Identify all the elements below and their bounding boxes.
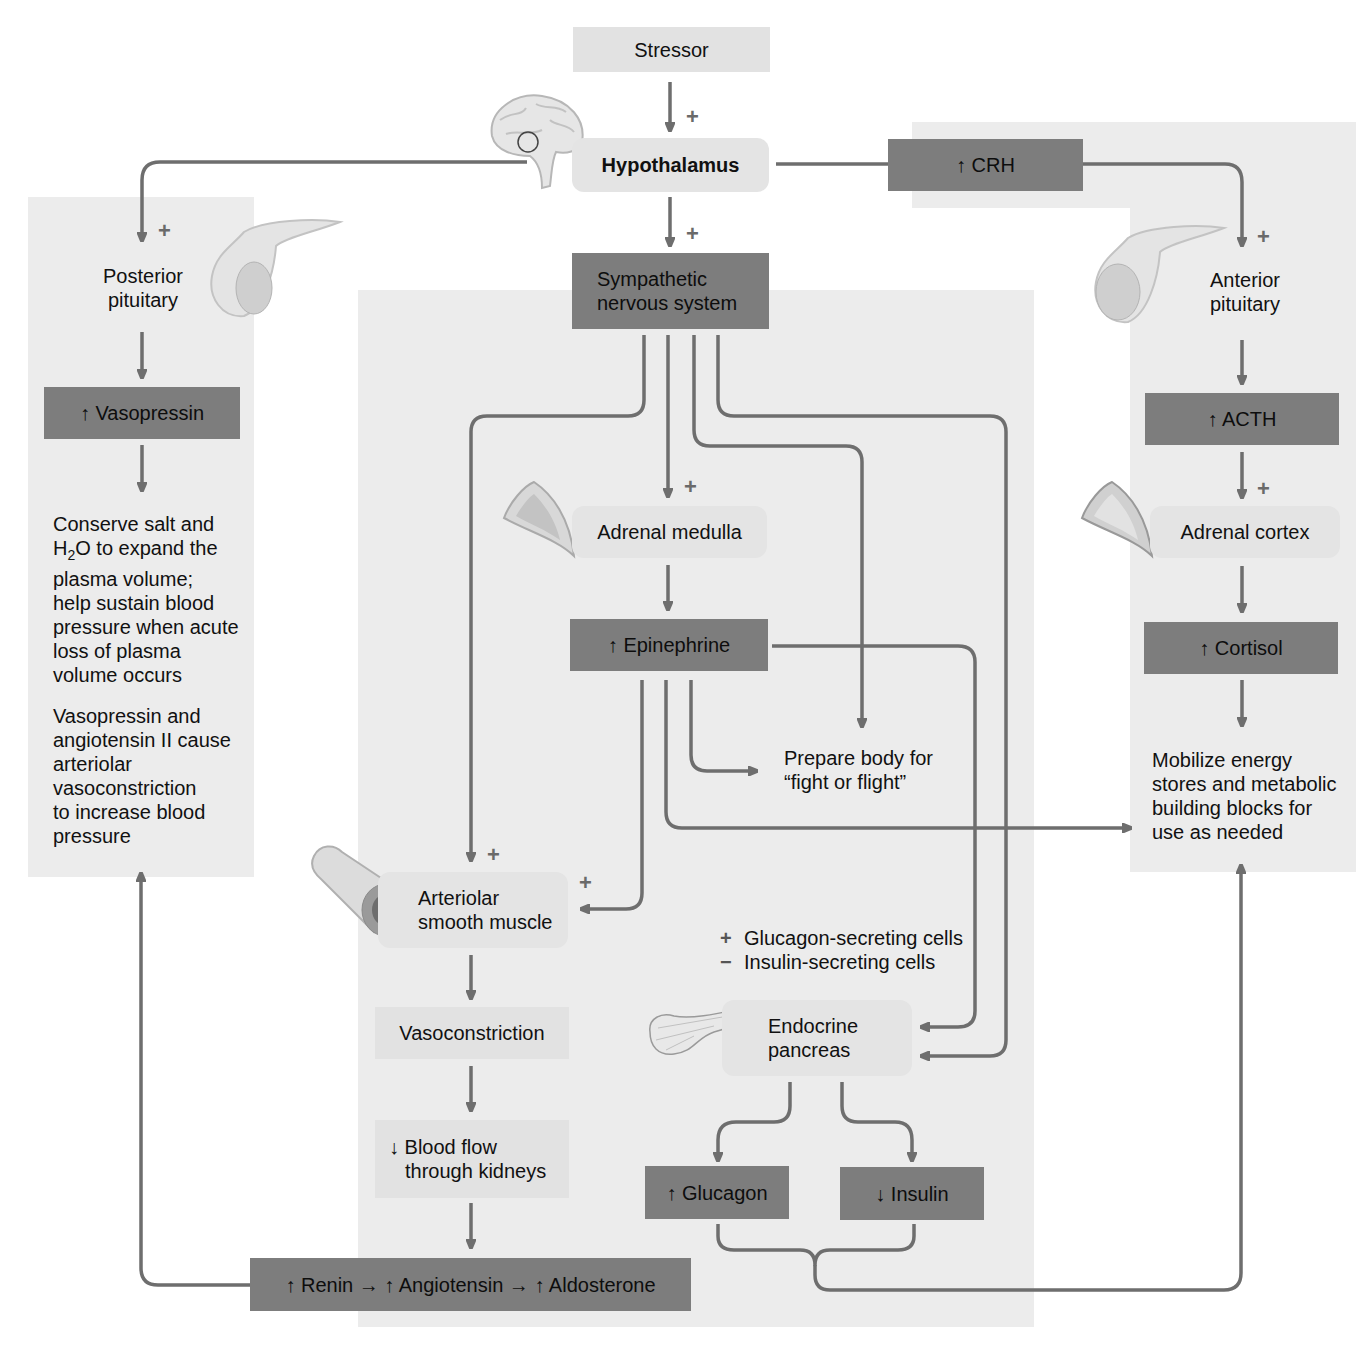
sns-line2: nervous system <box>597 291 737 315</box>
crh-box: ↑ CRH <box>888 139 1083 191</box>
insulin-box: ↓ Insulin <box>840 1167 984 1220</box>
adrenal-medulla-icon <box>500 478 580 563</box>
adrenal-cortex-label: Adrenal cortex <box>1181 520 1310 544</box>
acth-box: ↑ ACTH <box>1145 393 1339 445</box>
sns-line1: Sympathetic <box>597 267 707 291</box>
vasoconstriction-effect-text: Vasopressin and angiotensin II cause art… <box>53 704 248 848</box>
stressor-box: Stressor <box>573 27 770 72</box>
plus-sign: + <box>684 476 697 498</box>
crh-label: ↑ CRH <box>956 153 1015 177</box>
plus-sign: + <box>686 106 699 128</box>
cortisol-box: ↑ Cortisol <box>1144 622 1338 674</box>
plus-sign: + <box>1257 226 1270 248</box>
raa-label: ↑ Renin → ↑ Angiotensin → ↑ Aldosterone <box>285 1273 655 1297</box>
mobilize-energy-text: Mobilize energy stores and metabolic bui… <box>1152 748 1352 844</box>
epinephrine-box: ↑ Epinephrine <box>570 619 768 671</box>
adrenal-cortex-icon <box>1078 478 1158 563</box>
plus-sign: + <box>1257 478 1270 500</box>
fight-or-flight-text: Prepare body for “fight or flight” <box>784 746 933 794</box>
acth-label: ↑ ACTH <box>1208 407 1277 431</box>
vasoconstriction-label: Vasoconstriction <box>399 1021 544 1045</box>
plus-sign: + <box>158 220 171 242</box>
vasopressin-box: ↑ Vasopressin <box>44 387 240 439</box>
stressor-label: Stressor <box>634 38 708 62</box>
plus-sign: + <box>579 872 592 894</box>
vasopressin-effect-text: Conserve salt and H2O to expand the plas… <box>53 512 248 687</box>
adrenal-medulla-label: Adrenal medulla <box>597 520 742 544</box>
adrenal-medulla-box: Adrenal medulla <box>572 506 767 558</box>
renin-angiotensin-aldosterone-box: ↑ Renin → ↑ Angiotensin → ↑ Aldosterone <box>250 1258 691 1311</box>
vasoconstriction-box: Vasoconstriction <box>375 1007 569 1059</box>
sympathetic-nervous-system-box: Sympathetic nervous system <box>572 253 769 329</box>
glucagon-box: ↑ Glucagon <box>645 1166 789 1219</box>
arteriolar-smooth-muscle-box: Arteriolar smooth muscle <box>378 872 568 948</box>
blood-flow-kidneys-box: ↓ Blood flow through kidneys <box>375 1120 569 1198</box>
posterior-pituitary-label: Posterior pituitary <box>48 258 238 318</box>
plus-sign: + <box>487 844 500 866</box>
adrenal-cortex-box: Adrenal cortex <box>1150 506 1340 558</box>
cortisol-label: ↑ Cortisol <box>1199 636 1282 660</box>
insulin-label: ↓ Insulin <box>875 1182 948 1206</box>
endocrine-pancreas-box: Endocrine pancreas <box>722 1000 912 1076</box>
vasopressin-label: ↑ Vasopressin <box>80 401 204 425</box>
hypothalamus-label: Hypothalamus <box>602 153 740 177</box>
hypothalamus-box: Hypothalamus <box>572 138 769 192</box>
pancreas-effects: +Glucagon-secreting cells −Insulin-secre… <box>720 926 963 974</box>
plus-sign: + <box>686 223 699 245</box>
glucagon-cells-effect: +Glucagon-secreting cells <box>720 926 963 950</box>
anterior-pituitary-box: Anterior pituitary <box>1150 254 1340 330</box>
epinephrine-label: ↑ Epinephrine <box>608 633 730 657</box>
insulin-cells-effect: −Insulin-secreting cells <box>720 950 963 974</box>
glucagon-label: ↑ Glucagon <box>666 1181 767 1205</box>
